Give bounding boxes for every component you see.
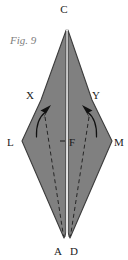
vertex-label-A: A (54, 245, 62, 257)
rhombus-fold-diagram: C L M A D X Y F Fig. 9 (0, 0, 128, 260)
vertex-label-Y: Y (92, 89, 100, 101)
vertex-label-D: D (70, 245, 78, 257)
vertex-label-X: X (26, 89, 34, 101)
figure-caption: Fig. 9 (9, 34, 37, 46)
rhombus-right-half (68, 30, 112, 238)
rhombus-left-half (22, 30, 66, 238)
vertex-label-L: L (7, 136, 14, 148)
figure-container: C L M A D X Y F Fig. 9 (0, 0, 128, 260)
vertex-label-C: C (60, 3, 67, 15)
vertex-label-F: F (69, 136, 75, 148)
vertex-label-M: M (114, 136, 124, 148)
